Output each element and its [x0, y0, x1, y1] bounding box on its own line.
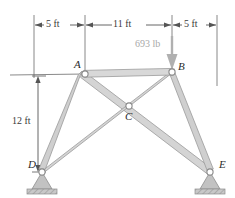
- joint-label-D: D: [28, 159, 36, 170]
- load-arrow: [167, 36, 178, 70]
- joint-E: [207, 169, 213, 175]
- joint-label-B: B: [178, 61, 185, 72]
- dimension-label-12ft: 12 ft: [12, 116, 31, 126]
- dimension-label-5ft-left: 5 ft: [46, 19, 60, 29]
- arrow-left-at-172: [164, 22, 171, 27]
- truss-joints: [39, 69, 213, 175]
- support-E-ground: [195, 189, 225, 194]
- joint-D: [39, 169, 45, 175]
- truss-figure: 5 ft 11 ft 5 ft 12 ft 693 lb A B C D E: [0, 0, 235, 198]
- arrow-right-at-172b: [173, 22, 180, 27]
- arrow-left-at-85: [77, 22, 84, 27]
- load-arrow-head: [167, 54, 178, 70]
- arrow-right-at-34: [35, 22, 42, 27]
- load-label: 693 lb: [135, 39, 160, 49]
- dimension-label-5ft-right: 5 ft: [184, 19, 198, 29]
- member-AB: [84, 68, 173, 77]
- joint-B: [169, 69, 175, 75]
- joint-C: [126, 103, 132, 109]
- joint-label-C: C: [125, 111, 132, 122]
- arrow-left-at-217: [209, 22, 216, 27]
- arrow-right-at-85b: [86, 22, 93, 27]
- member-AD: [39, 71, 82, 169]
- joint-label-E: E: [219, 159, 226, 170]
- joint-A: [82, 71, 88, 77]
- arrow-up-12ft: [35, 76, 40, 83]
- support-D-ground: [27, 189, 57, 194]
- dimension-label-11ft: 11 ft: [113, 19, 131, 29]
- reference-line-top-chord: [10, 74, 85, 75]
- joint-label-A: A: [74, 59, 81, 70]
